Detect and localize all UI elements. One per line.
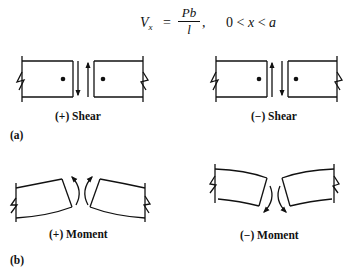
positive-shear-diagram bbox=[17, 56, 148, 102]
centroid-dot bbox=[257, 77, 262, 82]
positive-moment-caption: (+) Moment bbox=[49, 228, 108, 240]
left-beam-segment bbox=[210, 164, 267, 206]
negative-moment-caption: (−) Moment bbox=[240, 229, 299, 241]
negative-shear-caption: (−) Shear bbox=[251, 110, 297, 122]
moment-arrow-cw-icon bbox=[85, 177, 92, 205]
left-beam-segment bbox=[11, 179, 72, 222]
negative-shear-diagram bbox=[211, 56, 342, 102]
right-beam-segment bbox=[90, 179, 150, 222]
right-beam-segment bbox=[282, 164, 339, 206]
moment-arrow-ccw-icon bbox=[72, 177, 79, 205]
negative-moment-diagram bbox=[210, 164, 339, 212]
centroid-dot bbox=[294, 77, 299, 82]
moment-arrow-cw-icon bbox=[264, 186, 272, 212]
panel-a-label: (a) bbox=[10, 129, 23, 141]
panel-b-label: (b) bbox=[10, 254, 24, 266]
positive-shear-caption: (+) Shear bbox=[55, 110, 101, 122]
positive-moment-diagram bbox=[11, 177, 150, 222]
centroid-dot bbox=[101, 77, 106, 82]
centroid-dot bbox=[61, 77, 66, 82]
